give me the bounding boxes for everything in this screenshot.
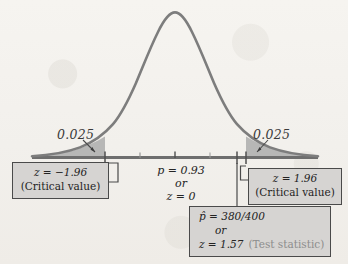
right-critical-value-callout: z = 1.96 (Critical value) xyxy=(248,168,342,205)
right-critical-value-caption: (Critical value) xyxy=(253,186,337,200)
right-callout-connector xyxy=(241,166,249,180)
center-value-label: p = 0.93 or z = 0 xyxy=(144,165,218,204)
left-tail-area-label: 0.025 xyxy=(57,128,94,143)
test-statistic-line: z = 1.57(Test statistic) xyxy=(199,238,326,252)
left-critical-value-text: z = −1.96 xyxy=(17,166,104,180)
center-or-text: or xyxy=(144,178,218,191)
test-statistic-or-text: or xyxy=(199,224,326,238)
test-statistic-callout: p̂ = 380/400 or z = 1.57(Test statistic) xyxy=(189,206,331,257)
normal-distribution-figure: 0.025 0.025 p = 0.93 or z = 0 z = −1.96 … xyxy=(0,0,348,264)
sample-proportion-text: p̂ = 380/400 xyxy=(199,210,326,224)
test-statistic-caption: (Test statistic) xyxy=(248,238,324,250)
test-statistic-value-text: z = 1.57 xyxy=(199,238,243,250)
left-critical-value-caption: (Critical value) xyxy=(17,180,104,194)
right-tail-area-label: 0.025 xyxy=(253,128,290,143)
center-zscore-text: z = 0 xyxy=(144,191,218,204)
right-critical-value-text: z = 1.96 xyxy=(253,172,337,186)
left-critical-value-callout: z = −1.96 (Critical value) xyxy=(12,162,109,199)
